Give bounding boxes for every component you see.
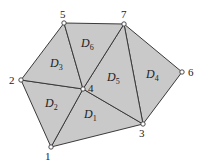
vertex-label-5: 5	[60, 8, 66, 20]
vertex-label-2: 2	[9, 74, 15, 86]
vertex-2-icon	[19, 78, 23, 82]
vertex-label-7: 7	[121, 8, 127, 20]
triangle-regions	[21, 23, 182, 147]
vertex-1-icon	[49, 145, 53, 149]
vertex-label-4: 4	[88, 82, 94, 94]
vertex-6-icon	[180, 70, 184, 74]
vertex-label-3: 3	[139, 127, 145, 139]
vertex-4-icon	[81, 87, 85, 91]
vertex-7-icon	[122, 22, 126, 26]
vertex-5-icon	[62, 21, 66, 25]
vertex-label-6: 6	[188, 66, 194, 78]
vertex-label-1: 1	[45, 150, 51, 162]
triangulated-polygon-diagram: 1234567 D1D2D3D4D5D6	[0, 0, 204, 166]
vertex-3-icon	[141, 122, 145, 126]
